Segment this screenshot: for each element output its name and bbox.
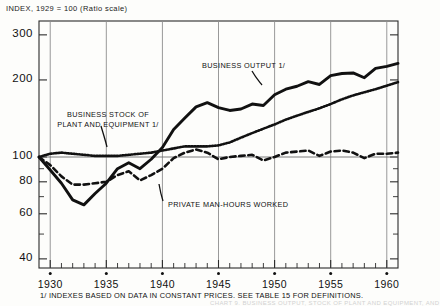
x-axis-label-1955: 1955 <box>311 278 351 290</box>
x-axis-label-1945: 1945 <box>199 278 239 290</box>
y-axis-label-80: 80 <box>1 174 33 186</box>
series-label-business-output: BUSINESS OUTPUT 1/ <box>202 61 285 71</box>
annotation-leader-lines <box>101 71 262 201</box>
x-axis-label-1960: 1960 <box>367 278 407 290</box>
y-axis-label-300: 300 <box>1 27 33 39</box>
x-tick-dots <box>49 272 389 275</box>
plant-equipment-line-1: BUSINESS STOCK OF <box>48 110 168 120</box>
leader-business-output <box>252 71 262 85</box>
y-axis-label-40: 40 <box>1 251 33 263</box>
x-axis-label-1930: 1930 <box>30 278 70 290</box>
series-label-man-hours: PRIVATE MAN-HOURS WORKED <box>168 200 288 210</box>
x-axis-label-1950: 1950 <box>255 278 295 290</box>
plant-equipment-line-2: PLANT AND EQUIPMENT 1/ <box>48 120 168 130</box>
x-axis-label-1935: 1935 <box>86 278 126 290</box>
y-axis-label-200: 200 <box>1 72 33 84</box>
x-tick-marks <box>50 260 387 268</box>
series-label-plant-equipment: BUSINESS STOCK OF PLANT AND EQUIPMENT 1/ <box>48 110 168 129</box>
x-axis-label-1940: 1940 <box>142 278 182 290</box>
y-axis-label-100: 100 <box>1 149 33 161</box>
chart-footnote: 1/ INDEXES BASED ON DATA IN CONSTANT PRI… <box>40 291 363 300</box>
y-axis-label-60: 60 <box>1 206 33 218</box>
bleedthrough-text: CHART 9. BUSINESS OUTPUT, STOCK OF PLANT… <box>210 300 440 306</box>
